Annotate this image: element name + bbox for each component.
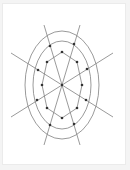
intersection-dot (73, 43, 76, 46)
intersection-dot (76, 107, 79, 110)
intersection-dot (61, 51, 64, 54)
intersection-dot (61, 117, 64, 120)
center-dot (61, 84, 63, 86)
intersection-dot (76, 61, 79, 64)
intersection-dot (41, 84, 44, 87)
intersection-dot (73, 123, 76, 126)
intersection-dot (85, 99, 88, 102)
ellipse-ray-diagram (0, 0, 130, 170)
intersection-dot (37, 69, 40, 72)
intersection-dot (86, 68, 89, 71)
intersection-dot (36, 99, 39, 102)
intersection-dot (49, 124, 52, 127)
intersection-dot (46, 61, 49, 64)
intersection-dot (46, 107, 49, 110)
intersection-dot (49, 45, 52, 48)
intersection-dot (81, 84, 84, 87)
